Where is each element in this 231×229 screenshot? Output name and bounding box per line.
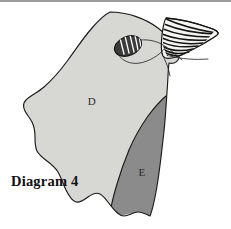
region-label-e: E	[138, 166, 145, 178]
diagram-canvas: D E Diagram 4	[0, 0, 231, 229]
figure-caption: Diagram 4	[11, 173, 78, 189]
diagram-figure: D E Diagram 4	[0, 0, 231, 229]
hatched-fan-structure	[161, 18, 218, 59]
region-label-d: D	[88, 95, 96, 107]
